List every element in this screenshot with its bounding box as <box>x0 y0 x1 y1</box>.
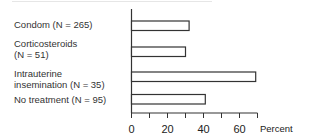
bar <box>132 47 186 57</box>
x-tick-label: 0 <box>128 123 134 135</box>
bar-chart: Condom (N = 265) Corticosteroids (N = 51… <box>0 0 323 139</box>
x-tick-label: 40 <box>197 123 209 135</box>
x-tick-label: 20 <box>161 123 173 135</box>
x-axis-label: Percent <box>260 123 293 134</box>
plot-area: 0204060Percent <box>0 0 323 139</box>
x-tick-label: 60 <box>233 123 245 135</box>
bar <box>132 72 256 82</box>
bar <box>132 95 206 105</box>
bar <box>132 21 190 31</box>
